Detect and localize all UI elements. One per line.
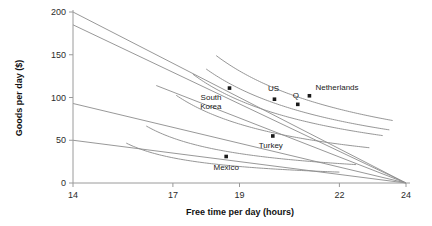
turkey-point (271, 134, 275, 138)
y-tick-label: 100 (51, 93, 66, 103)
x-tick-label: 14 (68, 190, 78, 200)
turkey-budget (156, 86, 406, 183)
y-tick-label: 50 (56, 135, 66, 145)
annotation-label: Turkey (259, 141, 283, 150)
economics-chart: 1417192224 050100150200 NetherlandsUSQSo… (0, 0, 432, 226)
y-tick-label: 150 (51, 50, 66, 60)
netherlands-curve (216, 56, 392, 121)
annotation-label: Mexico (214, 163, 240, 172)
chart-container: 1417192224 050100150200 NetherlandsUSQSo… (0, 0, 432, 226)
annotation-label: Korea (200, 102, 222, 111)
q-point (296, 103, 300, 107)
south-korea-budget (73, 103, 406, 183)
x-tick-label: 17 (168, 190, 178, 200)
y-tick-label: 0 (61, 178, 66, 188)
x-axis-ticks: 1417192224 (68, 183, 411, 200)
annotation-label: South (201, 93, 222, 102)
x-tick-label: 22 (334, 190, 344, 200)
us-point (273, 97, 277, 101)
x-axis-title: Free time per day (hours) (186, 207, 294, 217)
annotation-label: US (268, 84, 279, 93)
netherlands-point (308, 94, 312, 98)
us-budget (73, 25, 406, 183)
netherlands-budget (73, 12, 406, 183)
x-tick-label: 19 (234, 190, 244, 200)
x-tick-label: 24 (401, 190, 411, 200)
annotation-label: Netherlands (315, 83, 358, 92)
y-axis-title: Goods per day ($) (14, 60, 24, 137)
annotation-label: Q (293, 91, 299, 100)
axes-group (73, 10, 410, 183)
budget-lines-group (73, 12, 406, 183)
mexico-point (224, 155, 228, 159)
south-korea-point (228, 86, 232, 90)
y-tick-label: 200 (51, 7, 66, 17)
y-axis-ticks: 050100150200 (51, 7, 73, 188)
